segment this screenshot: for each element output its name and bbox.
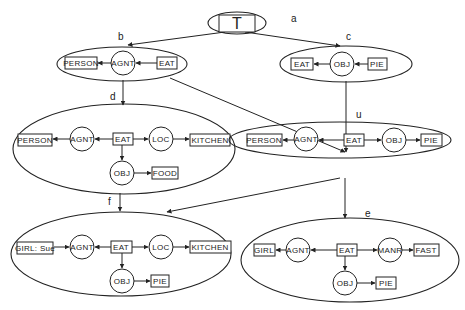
label-a: a (291, 13, 297, 24)
relation-obj: OBJ (114, 169, 130, 178)
relation-obj: OBJ (114, 277, 130, 286)
concept-girl-sue: GIRL: Sue (15, 244, 55, 253)
label-d: d (110, 91, 116, 102)
label-c: c (346, 31, 351, 42)
node-c: c EAT OBJ PIE (280, 31, 412, 82)
concept-kitchen: KITCHEN (191, 136, 228, 145)
relation-agnt: AGNT (294, 135, 317, 144)
node-a: T a (208, 12, 297, 34)
concept-kitchen: KITCHEN (191, 243, 228, 252)
concept-eat: EAT (113, 243, 129, 252)
concept-pie: PIE (153, 277, 167, 286)
node-u: u PERSON AGNT EAT OBJ PIE (229, 109, 451, 158)
relation-agnt: AGNT (286, 246, 309, 255)
concept-eat: EAT (159, 59, 175, 68)
relation-manr: MANR (378, 246, 403, 255)
concept-person: PERSON (63, 59, 99, 68)
relation-obj: OBJ (337, 279, 353, 288)
node-f: f GIRL: Sue AGNT EAT LOC KITCHEN OBJ PIE (11, 196, 231, 296)
node-e: e GIRL AGNT EAT MANR FAST OBJ PIE (241, 208, 459, 302)
concept-eat: EAT (115, 135, 131, 144)
top-concept-label: T (232, 15, 242, 32)
label-u: u (356, 109, 362, 120)
relation-loc: LOC (152, 243, 169, 252)
relation-agnt: AGNT (111, 59, 134, 68)
concept-pie: PIE (379, 279, 393, 288)
concept-eat: EAT (294, 60, 310, 69)
relation-obj: OBJ (334, 60, 350, 69)
node-d: d PERSON AGNT EAT LOC KITCHEN OBJ FOOD (13, 91, 235, 194)
concept-food: FOOD (153, 169, 177, 178)
label-f: f (108, 196, 111, 207)
node-b: b PERSON AGNT EAT (57, 31, 187, 81)
concept-pie: PIE (370, 60, 384, 69)
concept-eat: EAT (346, 136, 362, 145)
concept-pie: PIE (424, 136, 438, 145)
relation-obj: OBJ (386, 136, 402, 145)
label-b: b (118, 31, 124, 42)
label-e: e (365, 208, 371, 219)
conceptual-graph-hierarchy: T a b PERSON AGNT EAT c EAT OBJ PIE d PE… (0, 0, 465, 310)
concept-person: PERSON (246, 136, 282, 145)
concept-person: PERSON (17, 136, 53, 145)
concept-fast: FAST (415, 246, 436, 255)
concept-eat: EAT (339, 246, 355, 255)
relation-loc: LOC (152, 135, 169, 144)
relation-agnt: AGNT (70, 243, 93, 252)
relation-agnt: AGNT (70, 135, 93, 144)
concept-girl: GIRL (254, 246, 274, 255)
